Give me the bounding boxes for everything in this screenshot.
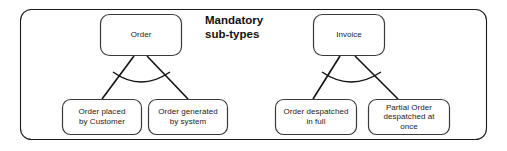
node-order-placed-by-customer[interactable] (63, 100, 142, 135)
diagram-canvas: Mandatory sub-types Order Invoice Order … (0, 0, 507, 151)
node-order-despatched-in-full[interactable] (276, 100, 357, 135)
node-partial-order-despatched-at-once[interactable] (369, 100, 450, 135)
diagram-title: Mandatory sub-types (205, 14, 315, 41)
node-order[interactable] (101, 15, 182, 56)
node-order-generated-by-system[interactable] (149, 100, 228, 135)
node-invoice[interactable] (314, 15, 385, 56)
